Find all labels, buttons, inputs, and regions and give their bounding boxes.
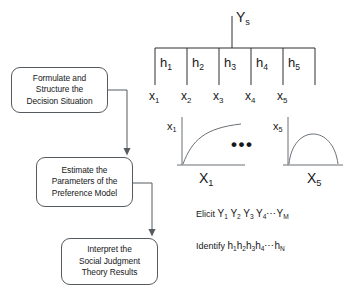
- plot-x5-y-axis-label: x5: [273, 120, 283, 134]
- tree-x-label-3: x3: [213, 89, 223, 105]
- tree-root-label: Ys: [236, 9, 250, 27]
- tree-x-label-5: x5: [277, 89, 287, 105]
- plot-x5-x-axis-label: X5: [307, 170, 321, 188]
- statement-identify-term-3: h3: [246, 240, 255, 251]
- flow-box-interpret-line-1: Interpret the: [87, 244, 132, 255]
- plot-x5-curve: [289, 134, 338, 164]
- flow-box-estimate[interactable]: Estimate the Parameters of the Preferenc…: [36, 157, 133, 207]
- tree-h-label-3: h3: [224, 55, 236, 72]
- flow-box-estimate-line-1: Estimate the: [62, 165, 108, 176]
- statement-identify-term-last: hN: [274, 240, 284, 251]
- flow-box-interpret[interactable]: Interpret the Social Judgment Theory Res…: [61, 238, 158, 285]
- connector-estimate-to-interpret: [133, 183, 156, 237]
- statement-elicit: Elicit Y1 Y2 Y3 Y4⋯YM: [196, 208, 289, 220]
- statement-elicit-term-3: Y3: [243, 208, 253, 219]
- tree-x-label-1: x1: [149, 89, 159, 105]
- statement-elicit-term-2: Y2: [230, 208, 240, 219]
- flow-box-estimate-line-2: Parameters of the: [52, 176, 118, 187]
- diagram-canvas: Formulate and Structure the Decision Sit…: [0, 0, 347, 301]
- plot-x1-y-axis-label: x1: [167, 120, 177, 134]
- plot-x5-axes: [283, 117, 343, 165]
- ellipsis-between-plots: •••: [231, 136, 253, 153]
- flow-box-estimate-line-3: Preference Model: [52, 188, 117, 199]
- flow-box-interpret-line-3: Theory Results: [82, 267, 138, 278]
- tree-x-label-4: x4: [245, 89, 255, 105]
- tree-h-label-5: h5: [288, 55, 300, 72]
- statement-identify-verb: Identify: [196, 241, 225, 251]
- statement-elicit-term-last: YM: [276, 208, 288, 219]
- statement-identify-term-2: h2: [237, 240, 246, 251]
- statement-elicit-separator: ⋯: [266, 208, 276, 219]
- statement-identify-term-1: h1: [228, 240, 237, 251]
- flow-box-formulate-line-3: Decision Situation: [26, 96, 92, 107]
- vector-layer: [0, 0, 347, 301]
- flow-box-formulate-line-1: Formulate and: [33, 73, 86, 84]
- flow-box-formulate[interactable]: Formulate and Structure the Decision Sit…: [11, 67, 108, 113]
- statement-identify: Identify h1h2h3h4⋯hN: [196, 240, 285, 252]
- tree-h-label-1: h1: [160, 55, 172, 72]
- statement-elicit-term-1: Y1: [218, 208, 228, 219]
- flow-box-formulate-line-2: Structure the: [36, 84, 83, 95]
- plot-x1-x-axis-label: X1: [199, 170, 213, 188]
- statement-identify-separator: ⋯: [264, 240, 274, 251]
- tree-h-label-2: h2: [192, 55, 204, 72]
- connector-formulate-to-estimate: [108, 90, 131, 156]
- tree-h-label-4: h4: [256, 55, 268, 72]
- statement-elicit-term-4: Y4: [256, 208, 266, 219]
- tree-x-label-2: x2: [181, 89, 191, 105]
- flow-box-interpret-line-2: Social Judgment: [79, 256, 140, 267]
- statement-elicit-verb: Elicit: [196, 209, 215, 219]
